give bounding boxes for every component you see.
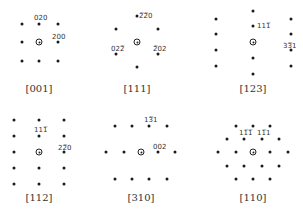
- diffraction-spot: [243, 138, 246, 141]
- diffraction-spot: [278, 165, 281, 168]
- diffraction-spot: [63, 135, 66, 138]
- diffraction-spot: [13, 135, 16, 138]
- miller-index-label: 22̅0: [58, 145, 71, 152]
- diffraction-spot: [13, 119, 16, 122]
- zone-axis-label-001: [001]: [26, 84, 53, 94]
- miller-index-label: 022̅: [111, 46, 124, 53]
- diffraction-spot: [269, 151, 272, 154]
- diffraction-spot: [269, 125, 272, 128]
- diffraction-spot: [290, 18, 293, 21]
- diffraction-spot: [38, 60, 41, 63]
- diffraction-spot: [261, 138, 264, 141]
- diffraction-spot: [278, 138, 281, 141]
- diffraction-spot: [166, 125, 169, 128]
- diffraction-spot: [115, 28, 118, 31]
- diffraction-spot: [63, 183, 66, 186]
- diffraction-spot: [235, 125, 238, 128]
- transmitted-beam-icon: [134, 39, 141, 46]
- diffraction-spot: [269, 178, 272, 181]
- transmitted-beam-icon: [250, 149, 257, 156]
- diffraction-spot: [21, 60, 24, 63]
- miller-index-label: 2̅2̅0: [139, 13, 152, 20]
- miller-index-label: 2̅02: [153, 46, 166, 53]
- diffraction-spot: [131, 125, 134, 128]
- miller-index-label: 020: [34, 15, 47, 22]
- transmitted-beam-icon: [36, 39, 43, 46]
- diffraction-spot: [38, 183, 41, 186]
- diffraction-spot: [215, 49, 218, 52]
- diffraction-spot: [114, 178, 117, 181]
- zone-axis-label-310: [310]: [128, 193, 155, 203]
- diffraction-spot: [13, 183, 16, 186]
- transmitted-beam-icon: [138, 149, 145, 156]
- miller-index-label: 200: [52, 34, 65, 41]
- diffraction-spot: [235, 151, 238, 154]
- diffraction-spot: [290, 33, 293, 36]
- diffraction-spot: [123, 151, 126, 154]
- diffraction-spot: [252, 178, 255, 181]
- zone-axis-label-112: [112]: [26, 193, 53, 203]
- diffraction-spot: [148, 178, 151, 181]
- diffraction-spot: [243, 165, 246, 168]
- diffraction-spot: [252, 25, 255, 28]
- diffraction-spot: [21, 23, 24, 26]
- diffraction-spot: [235, 178, 238, 181]
- diffraction-spot: [215, 65, 218, 68]
- miller-index-label: 111̅: [34, 127, 47, 134]
- diffraction-spot: [21, 41, 24, 44]
- miller-index-label: 33̅1: [283, 43, 296, 50]
- diffraction-spot: [38, 23, 41, 26]
- diffraction-spot: [215, 33, 218, 36]
- zone-axis-label-123: [123]: [240, 84, 267, 94]
- diffraction-spot: [38, 119, 41, 122]
- miller-index-label: 002: [153, 144, 166, 151]
- diffraction-spot: [148, 125, 151, 128]
- diffraction-spot: [38, 135, 41, 138]
- diffraction-spot: [174, 151, 177, 154]
- diffraction-spot: [57, 23, 60, 26]
- diffraction-spot: [38, 167, 41, 170]
- diffraction-spot: [63, 119, 66, 122]
- miller-index-label: 13̅1: [144, 117, 157, 124]
- zone-axis-label-111: [111]: [124, 84, 151, 94]
- diffraction-spot: [166, 178, 169, 181]
- diffraction-spot: [226, 138, 229, 141]
- diffraction-spot: [215, 18, 218, 21]
- diffraction-spot: [13, 151, 16, 154]
- diffraction-patterns-figure: 0202002̅2̅0022̅2̅02111̅33̅1111̅22̅013̅10…: [0, 0, 303, 215]
- diffraction-spot: [136, 66, 139, 69]
- diffraction-spot: [290, 65, 293, 68]
- diffraction-spot: [131, 178, 134, 181]
- transmitted-beam-icon: [36, 149, 43, 156]
- diffraction-spot: [105, 151, 108, 154]
- diffraction-spot: [252, 10, 255, 13]
- diffraction-spot: [287, 151, 290, 154]
- zone-axis-label-110: [110]: [240, 193, 267, 203]
- diffraction-spot: [252, 73, 255, 76]
- diffraction-spot: [252, 125, 255, 128]
- miller-index-label: 11̅1̅: [239, 130, 252, 137]
- diffraction-spot: [63, 167, 66, 170]
- diffraction-spot: [217, 151, 220, 154]
- diffraction-spot: [13, 167, 16, 170]
- diffraction-spot: [261, 165, 264, 168]
- diffraction-spot: [226, 165, 229, 168]
- diffraction-spot: [114, 125, 117, 128]
- miller-index-label: 111̅: [257, 23, 270, 30]
- diffraction-spot: [157, 28, 160, 31]
- transmitted-beam-icon: [250, 39, 257, 46]
- diffraction-spot: [252, 57, 255, 60]
- miller-index-label: 11̅1: [257, 130, 270, 137]
- diffraction-spot: [57, 60, 60, 63]
